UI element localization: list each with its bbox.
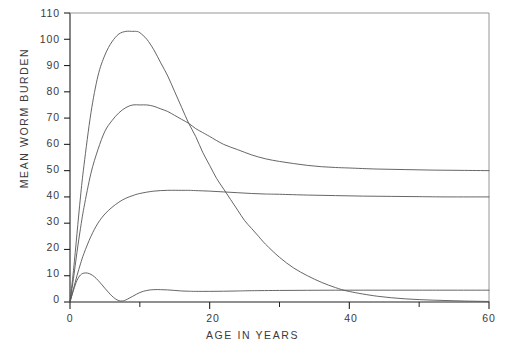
x-axis-title: AGE IN YEARS (0, 329, 505, 341)
axis-frame (70, 13, 489, 302)
plot-area (0, 0, 505, 349)
y-ticks (64, 13, 70, 302)
y-tick-label-20: 20 (22, 241, 60, 253)
x-ticks (70, 302, 489, 309)
y-tick-label-10: 10 (22, 267, 60, 279)
curves-group (70, 31, 489, 302)
y-axis-title: MEAN WORM BURDEN (18, 28, 30, 208)
series-curve-1 (70, 31, 489, 302)
series-curve-3 (70, 190, 489, 302)
y-tick-label-0: 0 (22, 293, 60, 305)
x-tick-label-60: 60 (475, 312, 503, 324)
x-tick-label-0: 0 (56, 312, 84, 324)
worm-burden-chart: 110 100 90 80 70 60 50 40 30 20 10 0 0 2… (0, 0, 505, 349)
series-curve-2 (70, 105, 489, 302)
x-tick-label-20: 20 (199, 312, 227, 324)
series-curve-4 (70, 273, 489, 302)
x-tick-label-40: 40 (337, 312, 365, 324)
y-tick-label-110: 110 (22, 7, 60, 19)
y-tick-label-30: 30 (22, 215, 60, 227)
